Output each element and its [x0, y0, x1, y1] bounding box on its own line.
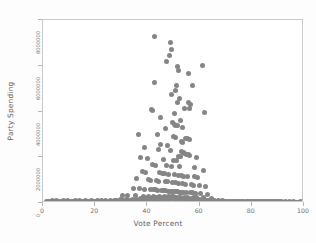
scatter-point	[185, 174, 190, 179]
scatter-point	[168, 148, 173, 153]
x-tick-label: 40	[142, 207, 150, 214]
scatter-point	[153, 163, 158, 168]
scatter-point	[158, 142, 163, 147]
scatter-point	[204, 200, 209, 202]
scatter-point	[219, 200, 224, 202]
scatter-point	[152, 34, 157, 39]
scatter-point	[158, 115, 163, 120]
scatter-point	[180, 125, 185, 130]
scatter-point	[165, 179, 170, 184]
scatter-point	[143, 170, 148, 175]
plot-area	[42, 19, 303, 202]
scatter-point	[187, 153, 192, 158]
scatter-point	[167, 53, 172, 58]
scatter-point	[197, 183, 202, 188]
scatter-point	[148, 178, 153, 183]
scatter-point	[78, 200, 83, 202]
scatter-point	[183, 182, 188, 187]
scatter-point	[133, 200, 138, 202]
scatter-point	[202, 110, 207, 115]
scatter-point	[187, 137, 192, 142]
scatter-point	[48, 200, 53, 202]
scatter-point	[117, 200, 122, 202]
scatter-point	[150, 108, 155, 113]
scatter-point	[235, 200, 240, 202]
scatter-points-layer	[43, 20, 302, 201]
scatter-point	[175, 100, 180, 105]
scatter-point	[161, 157, 166, 162]
scatter-point	[157, 200, 162, 202]
scatter-point	[172, 111, 177, 116]
scatter-point	[138, 155, 143, 160]
scatter-point	[139, 200, 144, 202]
scatter-point	[172, 200, 177, 202]
scatter-point	[174, 158, 179, 163]
scatter-point	[272, 200, 277, 202]
x-tick-mark	[94, 202, 95, 206]
scatter-point	[145, 156, 150, 161]
scatter-point	[180, 140, 185, 145]
scatter-point	[201, 168, 206, 173]
scatter-point	[164, 59, 169, 64]
x-tick-mark	[42, 202, 43, 206]
y-tick-label: 6000000	[35, 77, 41, 100]
scatter-point	[195, 175, 200, 180]
scatter-point	[203, 184, 208, 189]
scatter-point	[192, 165, 197, 170]
scatter-point	[169, 92, 174, 97]
x-tick-mark	[146, 202, 147, 206]
scatter-point	[266, 200, 271, 202]
y-tick-label: 8000000	[35, 31, 41, 54]
scatter-point	[169, 47, 174, 52]
scatter-point	[256, 200, 261, 202]
x-tick-mark	[303, 202, 304, 206]
scatter-point	[287, 200, 292, 202]
scatter-point	[142, 187, 147, 192]
scatter-point	[86, 200, 91, 202]
x-tick-mark	[251, 202, 252, 206]
scatter-point	[169, 164, 174, 169]
scatter-point	[156, 147, 161, 152]
scatter-point	[136, 132, 141, 137]
scatter-point	[142, 145, 147, 150]
scatter-point	[155, 132, 160, 137]
scatter-point	[209, 200, 214, 202]
scatter-point	[186, 71, 191, 76]
scatter-point	[225, 200, 230, 202]
scatter-point	[166, 172, 171, 177]
scatter-point	[66, 200, 71, 202]
scatter-point	[123, 200, 128, 202]
scatter-point	[134, 176, 139, 181]
x-axis-title: Vote Percent	[0, 219, 316, 228]
scatter-chart-figure: Party Spending 0200000040000006000000800…	[0, 0, 316, 243]
scatter-point	[190, 83, 195, 88]
scatter-point	[168, 40, 173, 45]
scatter-point	[152, 80, 157, 85]
scatter-point	[156, 179, 161, 184]
x-tick-label: 100	[297, 207, 309, 214]
y-axis-title: Party Spending	[4, 19, 15, 202]
scatter-point	[163, 126, 168, 131]
y-axis-title-label: Party Spending	[5, 81, 14, 140]
scatter-point	[182, 106, 187, 111]
scatter-point	[188, 200, 193, 202]
scatter-point	[176, 68, 181, 73]
scatter-point	[194, 155, 199, 160]
scatter-point	[191, 183, 196, 188]
scatter-point	[173, 135, 178, 140]
scatter-point	[107, 200, 112, 202]
scatter-point	[164, 200, 169, 202]
scatter-point	[187, 106, 192, 111]
x-tick-mark	[199, 202, 200, 206]
scatter-point	[149, 200, 154, 202]
scatter-point	[298, 200, 303, 202]
x-tick-label: 80	[247, 207, 255, 214]
y-tick-label: 4000000	[35, 123, 41, 146]
scatter-point	[200, 63, 205, 68]
x-tick-label: 60	[195, 207, 203, 214]
x-tick-label: 0	[40, 207, 44, 214]
scatter-point	[178, 118, 183, 123]
y-tick-label: 0	[35, 214, 41, 217]
scatter-point	[174, 83, 179, 88]
scatter-point	[240, 200, 245, 202]
